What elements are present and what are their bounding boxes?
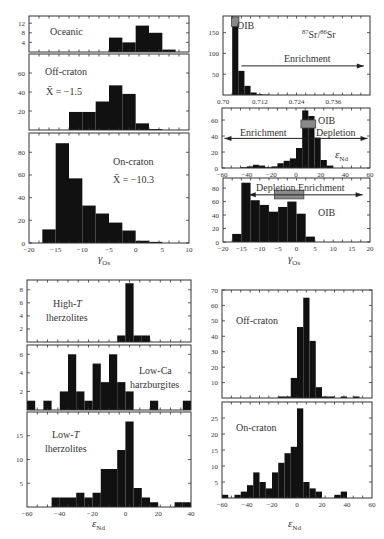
histogram-bar <box>297 408 303 498</box>
histogram-bar <box>302 110 308 168</box>
y-tick-label: 4 <box>20 312 24 320</box>
axis-label-eps-nd-lower-right: εNd <box>288 517 301 532</box>
y-tick-label: 50 <box>211 317 219 325</box>
y-tick-label: 20 <box>211 431 219 439</box>
histogram-bar <box>290 158 296 168</box>
histogram-bar <box>303 298 309 398</box>
annotation-text: OIB <box>237 20 255 31</box>
annotation-text: Low-Ca <box>139 365 172 376</box>
histogram-bar <box>316 492 322 498</box>
histogram-bar <box>109 354 117 410</box>
y-tick-label: 10 <box>211 463 219 471</box>
histogram-bar <box>315 138 321 168</box>
histogram-bar <box>272 472 278 498</box>
histogram-bar <box>142 498 150 508</box>
histogram-bar <box>109 469 117 507</box>
histogram-bar <box>117 335 125 342</box>
histogram-bar <box>76 391 84 410</box>
y-tick-label: 40 <box>212 212 220 220</box>
histogram-bar <box>183 502 191 507</box>
annotation-text: High-T <box>53 298 83 309</box>
histogram-bar <box>278 163 284 168</box>
histogram-bar <box>134 335 142 342</box>
x-tick-label: 20 <box>155 510 163 518</box>
histogram-bar <box>101 382 109 410</box>
histogram-bar <box>125 422 133 508</box>
histogram-bar <box>101 469 109 507</box>
histogram-bar <box>251 200 260 242</box>
panel-sr-isotope: 501001500.700.7120.7240.736OIBEnrichment… <box>209 16 371 106</box>
histogram-bar <box>253 472 259 498</box>
x-tick-label: 0 <box>295 245 299 253</box>
histogram-bar <box>69 112 82 130</box>
x-tick-label: 0 <box>134 246 138 254</box>
x-tick-label: −60 <box>22 510 33 518</box>
x-tick-label: 0.712 <box>252 98 268 106</box>
annotation-text: Enrichment <box>284 53 331 64</box>
y-tick-label: 40 <box>211 133 219 141</box>
annotation-text: lherzolites <box>46 312 88 323</box>
histogram-bar <box>269 212 278 242</box>
x-tick-label: −10 <box>77 246 88 254</box>
x-tick-label: −60 <box>217 501 228 509</box>
y-tick-label: 60 <box>211 117 219 125</box>
histogram-bar <box>291 378 297 398</box>
annotation-text: lherzolites <box>45 443 87 454</box>
panel-eps-nd-oceanic: 0204060−60−40−200204060OIBEnrichmentDepl… <box>211 108 374 179</box>
histogram-bar <box>82 112 95 130</box>
x-tick-label: 0 <box>295 501 299 509</box>
x-tick-label: −15 <box>236 245 247 253</box>
histogram-bar <box>96 214 109 243</box>
y-tick-label: 5 <box>215 479 219 487</box>
histogram-bars <box>69 85 162 130</box>
histogram-bar <box>241 183 250 242</box>
x-tick-label: 60 <box>369 501 377 509</box>
y-tick-label: 6 <box>20 299 24 307</box>
panel-gamma-os-on-craton: 020406080−20−15−10−50510On-cratonX̄ = −1… <box>18 133 193 254</box>
arrow-right-icon <box>357 63 364 68</box>
axis-label-gamma-os-right: γOs <box>288 252 300 267</box>
x-tick-label: −10 <box>254 245 265 253</box>
annotation-text: Off-craton <box>236 315 278 326</box>
annotation-text: harzburgites <box>130 379 179 390</box>
x-tick-label: −5 <box>105 246 113 254</box>
annotation-text: Enrichment <box>240 127 287 138</box>
axis-label-eps-nd-lower-left: εNd <box>92 517 105 532</box>
histogram-bar <box>93 493 101 507</box>
histogram-bar <box>52 498 60 508</box>
y-tick-label: 20 <box>211 364 219 372</box>
histogram-bar <box>69 178 82 243</box>
histogram-bar <box>291 447 297 498</box>
histogram-bars <box>117 283 150 342</box>
y-tick-label: 15 <box>211 447 219 455</box>
x-tick-label: −20 <box>267 501 278 509</box>
x-tick-label: 0 <box>124 510 128 518</box>
histogram-bar <box>260 482 266 498</box>
x-tick-label: −40 <box>242 501 253 509</box>
histogram-bar <box>109 223 122 243</box>
histogram-bar <box>241 492 247 498</box>
histogram-bars <box>109 26 176 52</box>
histogram-bar <box>96 102 109 131</box>
annotation-text: OIB <box>318 115 336 126</box>
histogram-bar <box>238 71 244 95</box>
axis-label-gamma-os-left: γOs <box>98 252 110 267</box>
y-tick-label: 8 <box>22 29 26 37</box>
x-tick-label: 0.70 <box>217 98 230 106</box>
histogram-bar <box>310 488 316 498</box>
histogram-bar <box>109 38 122 52</box>
y-tick-label: 12 <box>18 20 26 28</box>
annotation-text: Depletion <box>316 127 355 138</box>
annotation-text: Off-craton <box>45 66 87 77</box>
histogram-bar <box>232 22 238 95</box>
histogram-bar <box>297 214 306 242</box>
annotation-text: On-craton <box>236 422 277 433</box>
arrow-right-icon <box>361 136 368 141</box>
histogram-bar <box>316 387 322 398</box>
histogram-bar <box>150 502 158 507</box>
histogram-bar <box>175 502 183 507</box>
histogram-bar <box>60 498 68 508</box>
histogram-bar <box>232 234 241 242</box>
y-tick-label: 50 <box>212 71 220 79</box>
panel-eps-nd-low-ca: 246Low-Caharzburgites <box>20 345 192 410</box>
